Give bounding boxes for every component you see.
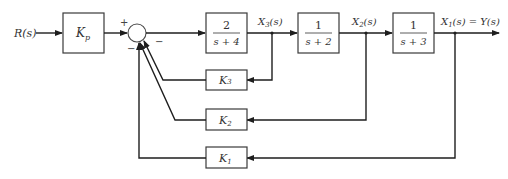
x3-label: X3(s) bbox=[257, 16, 283, 29]
x2-label: X2(s) bbox=[351, 16, 377, 29]
svg-text:1: 1 bbox=[410, 19, 417, 32]
k2-block: K2 bbox=[206, 109, 247, 130]
g3-block: 2 s + 4 bbox=[206, 13, 247, 53]
input-label: R(s) bbox=[13, 27, 37, 40]
kp-block: Kp bbox=[63, 13, 104, 53]
g2-block: 1 s + 2 bbox=[298, 13, 339, 53]
g1-block: 1 s + 3 bbox=[393, 13, 434, 53]
k3-to-sum-wire bbox=[144, 41, 206, 80]
block-diagram: R(s) Kp + − − − 2 s + 4 X3(s) 1 s + 2 X2… bbox=[0, 0, 508, 179]
x1-output-label: X1(s) = Y(s) bbox=[440, 16, 500, 29]
svg-text:1: 1 bbox=[315, 19, 322, 32]
svg-text:2: 2 bbox=[223, 19, 230, 32]
svg-text:s + 2: s + 2 bbox=[305, 36, 331, 47]
sign-minus-k3: − bbox=[155, 36, 163, 47]
svg-text:s + 3: s + 3 bbox=[400, 36, 426, 47]
sign-minus-k1: − bbox=[127, 43, 135, 54]
k1-to-sum-wire bbox=[139, 43, 206, 158]
sign-plus: + bbox=[120, 17, 128, 28]
k3-block: K3 bbox=[206, 70, 247, 90]
x3-feedback-wire bbox=[247, 33, 272, 80]
summing-junction: + − − − bbox=[120, 17, 163, 54]
k1-block: K1 bbox=[206, 147, 247, 168]
svg-text:s + 4: s + 4 bbox=[213, 36, 239, 47]
